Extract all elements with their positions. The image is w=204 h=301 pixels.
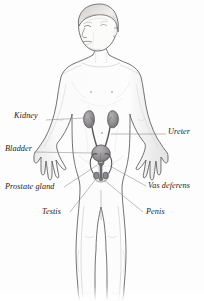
label-prostate-gland: Prostate gland (5, 183, 55, 191)
label-kidney: Kidney (14, 112, 38, 120)
penis-glans (99, 177, 103, 180)
nipple-right (111, 91, 113, 93)
label-ureter: Ureter (168, 128, 190, 136)
label-penis: Penis (146, 208, 165, 216)
label-testis: Testis (42, 208, 61, 216)
label-bladder: Bladder (5, 145, 32, 153)
navel (101, 132, 103, 134)
nipple-left (90, 91, 92, 93)
testis-left-organ (94, 172, 99, 179)
label-vas-deferens: Vas deferens (148, 182, 190, 190)
kidney-right-organ (108, 111, 119, 128)
kidney-left-organ (84, 111, 95, 128)
anatomy-figure: Kidney Bladder Prostate gland Testis Ure… (0, 0, 204, 301)
testis-right-organ (103, 172, 108, 179)
bottom-fade (0, 286, 204, 301)
